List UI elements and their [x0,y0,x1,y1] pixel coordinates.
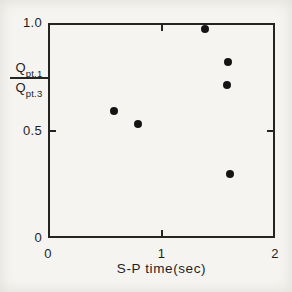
x-tick-label: 0 [36,246,60,262]
plot-frame [48,23,275,238]
y-axis-label-denominator-subscript: pt.3 [26,88,43,99]
data-point [224,58,232,66]
y-tick-label: 0.5 [6,123,42,139]
y-axis-label-numerator: Qpt.1 [10,60,48,79]
data-point [226,170,234,178]
x-tick-mark-top [161,23,163,31]
scatter-figure: Qpt.1 Qpt.3 S-P time(sec) 01200.51.0 [0,0,292,292]
x-tick-label: 1 [150,246,174,262]
y-tick-label: 1.0 [6,15,42,31]
x-axis-label: S-P time(sec) [48,261,275,277]
y-tick-mark-right [267,130,275,132]
y-tick-label: 0 [6,230,42,246]
y-axis-label-numerator-subscript: pt.1 [26,68,43,79]
y-axis-label-denominator: Qpt.3 [10,79,48,96]
data-point [223,81,231,89]
y-axis-label-denominator-base: Q [16,80,26,95]
data-point [134,120,142,128]
y-axis-label: Qpt.1 Qpt.3 [10,60,48,96]
data-point [201,25,209,33]
x-tick-mark-bottom [161,230,163,238]
data-point [110,107,118,115]
y-tick-mark-left [48,130,56,132]
y-axis-label-numerator-base: Q [16,60,26,75]
x-tick-label: 2 [263,246,287,262]
